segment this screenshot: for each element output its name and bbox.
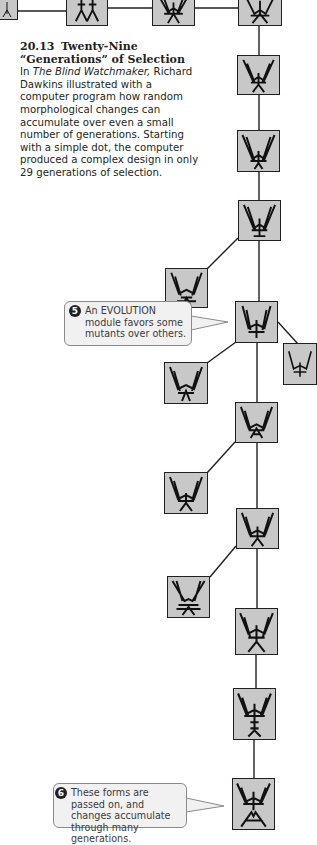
biomorph-box-branch-2 (283, 343, 317, 385)
biomorph-icon (236, 302, 277, 342)
biomorph-box-branch-5 (167, 576, 210, 618)
figure-number: 20.13 (20, 40, 54, 53)
biomorph-box-gen-4 (238, 0, 282, 26)
biomorph-icon (238, 56, 279, 94)
callout-evolution-module: 5 An EVOLUTION module favors some mutant… (64, 301, 192, 346)
biomorph-box-gen-5 (237, 55, 280, 95)
biomorph-box-gen-7 (238, 200, 281, 241)
biomorph-box-gen-6 (237, 130, 280, 172)
biomorph-icon (284, 344, 316, 384)
biomorph-box-branch-4 (164, 472, 208, 514)
biomorph-box-gen-9 (235, 402, 278, 443)
biomorph-icon (238, 131, 279, 171)
figure-caption: 20.13 Twenty-Nine “Generations” of Selec… (20, 41, 202, 180)
biomorph-icon (153, 0, 194, 25)
biomorph-icon (239, 201, 280, 240)
biomorph-icon (168, 577, 209, 617)
biomorph-icon (234, 689, 275, 739)
biomorph-box-gen-12 (233, 688, 276, 740)
biomorph-icon (165, 473, 207, 513)
biomorph-icon (67, 0, 107, 25)
biomorph-box-gen-1 (0, 0, 18, 20)
biomorph-icon (0, 0, 17, 19)
biomorph-box-gen-10 (236, 508, 279, 549)
book-title: The Blind Watchmaker, (33, 66, 151, 77)
biomorph-icon (239, 0, 281, 25)
biomorph-box-gen-11 (235, 608, 278, 655)
step-badge-5: 5 (69, 305, 81, 317)
biomorph-icon (233, 779, 274, 829)
biomorph-icon (165, 363, 207, 403)
callout-forms-passed-on: 6 These forms are passed on, and changes… (53, 783, 187, 828)
evolution-term: EVOLUTION (101, 305, 156, 316)
biomorph-box-gen-8 (235, 301, 278, 343)
biomorph-icon (237, 509, 278, 548)
caption-body: Richard Dawkins illustrated with a compu… (20, 66, 198, 178)
biomorph-icon (236, 609, 277, 654)
biomorph-box-gen-3 (152, 0, 195, 26)
caption-intro: In (20, 66, 33, 77)
biomorph-box-gen-13 (232, 778, 275, 830)
biomorph-icon (236, 403, 277, 442)
biomorph-box-gen-2 (66, 0, 108, 26)
step-badge-6: 6 (55, 787, 67, 799)
biomorph-box-branch-3 (164, 362, 208, 404)
